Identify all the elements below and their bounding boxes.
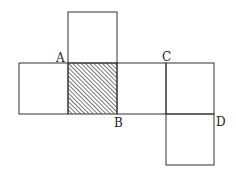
label-d: D <box>216 116 226 128</box>
square-shaded <box>68 63 117 114</box>
label-a: A <box>56 52 65 64</box>
cube-net-diagram: A B C D <box>0 0 236 177</box>
cube-net-drawing <box>0 0 236 177</box>
square-right <box>166 63 214 114</box>
square-bottom <box>166 114 214 165</box>
square-left <box>19 63 68 114</box>
square-top <box>68 12 117 63</box>
label-c: C <box>162 51 171 63</box>
label-b: B <box>114 117 123 129</box>
square-middle-right <box>117 63 166 114</box>
